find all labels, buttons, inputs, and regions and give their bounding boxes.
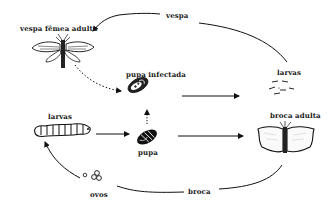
label-adult-female-wasp: vespa fêmea adulta [20, 24, 97, 33]
edge-vespa-top-line [119, 13, 160, 15]
label-wasp-cycle: vespa [166, 11, 188, 20]
wasp-icon [32, 34, 94, 68]
label-adult-borer: broca adulta [270, 111, 321, 120]
caterpillar-icon [35, 124, 91, 137]
label-borer-cycle: broca [188, 187, 211, 196]
edge-wasp-to-infected-pupa [75, 65, 121, 91]
eggs-icon [83, 171, 101, 181]
wasp-larvae-icon [269, 81, 294, 94]
label-wasp-larvae: larvas [277, 68, 301, 77]
edge-eggs-to-larvae [45, 142, 80, 178]
label-borer-larvae: larvas [48, 112, 72, 121]
pupa-icon [134, 126, 159, 147]
edge-vespa-cycle [93, 15, 287, 62]
label-pupa: pupa [138, 148, 158, 157]
label-eggs: ovos [90, 190, 108, 199]
moth-icon [258, 121, 314, 153]
label-infected-pupa: pupa infectada [126, 70, 186, 79]
